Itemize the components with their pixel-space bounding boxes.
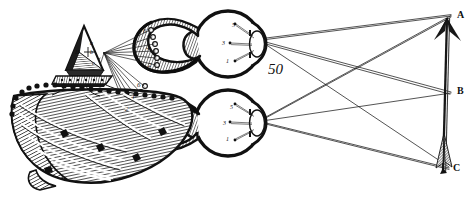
pineal-label-H: H <box>75 49 80 55</box>
lower-tract-label-4: 4 <box>131 94 135 101</box>
pineal-label-b: b <box>90 49 93 55</box>
upper-tract-label-4: 4 <box>146 45 150 52</box>
lower-tract-label-6: 6 <box>137 82 141 89</box>
upper-tract-label-6: 6 <box>143 28 147 35</box>
figure-plate: 50 5 3 1 5 3 1 6 4 2 6 4 2 a H b c A B C <box>0 0 471 217</box>
object-label-A: A <box>457 10 464 20</box>
pineal-label-a: a <box>90 40 93 46</box>
object-label-C: C <box>453 163 460 173</box>
lower-tract-label-2: 2 <box>125 106 129 113</box>
pineal-label-c: c <box>92 60 95 66</box>
object-label-B: B <box>457 86 464 96</box>
figure-number: 50 <box>268 62 283 77</box>
lower-eye-retina-label-5: 5 <box>230 104 233 110</box>
upper-eye-retina-label-3: 3 <box>222 40 225 46</box>
upper-eye-retina-label-1: 1 <box>226 58 229 64</box>
descartes-binocular-vision-engraving <box>0 0 471 217</box>
upper-eye-retina-label-5: 5 <box>232 22 235 28</box>
upper-tract-label-2: 2 <box>148 62 152 69</box>
lower-eye-retina-label-3: 3 <box>223 120 226 126</box>
lower-eye-retina-label-1: 1 <box>226 136 229 142</box>
